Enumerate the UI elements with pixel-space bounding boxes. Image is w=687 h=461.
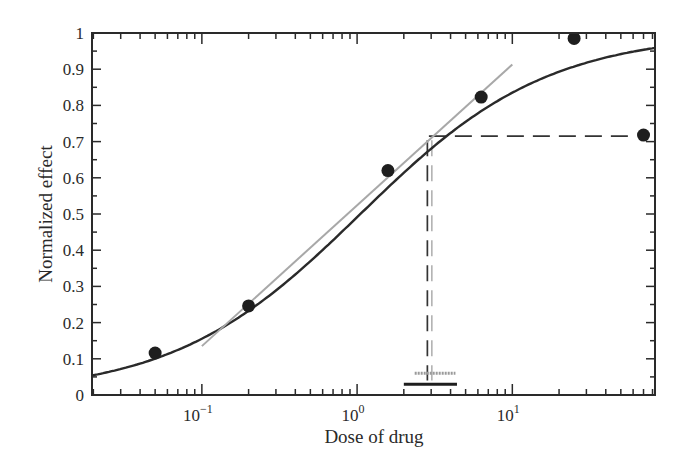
chart-canvas: 00.10.20.30.40.50.60.70.80.91 10−1100101… [0, 0, 687, 461]
data-point [637, 129, 650, 142]
fitted-curve [92, 48, 655, 376]
y-tick-label: 1 [76, 24, 85, 43]
y-axis-label: Normalized effect [35, 145, 56, 283]
x-tick-label: 10−1 [183, 402, 213, 425]
x-tick-label: 101 [497, 402, 520, 425]
y-tick-label: 0.1 [63, 350, 84, 369]
y-tick-label: 0.3 [63, 277, 84, 296]
series-layer [92, 32, 655, 376]
y-tick-label: 0.6 [63, 169, 84, 188]
y-tick-label: 0 [76, 386, 85, 405]
y-tick-label: 0.4 [63, 241, 85, 260]
y-tick-label: 0.7 [63, 133, 85, 152]
data-point [475, 91, 488, 104]
y-tick-label: 0.5 [63, 205, 84, 224]
y-tick-label: 0.2 [63, 314, 84, 333]
dose-response-figure: 00.10.20.30.40.50.60.70.80.91 10−1100101… [0, 0, 687, 461]
x-tick-label: 100 [342, 402, 365, 425]
data-point [149, 347, 162, 360]
annotations [404, 136, 636, 384]
x-tick-labels: 10−1100101 [183, 402, 520, 425]
y-tick-label: 0.8 [63, 96, 84, 115]
y-tick-label: 0.9 [63, 60, 84, 79]
axis-ticks [92, 33, 655, 395]
x-axis-label: Dose of drug [324, 426, 424, 447]
plot-frame [92, 33, 655, 395]
data-point [242, 299, 255, 312]
data-point [381, 164, 394, 177]
y-tick-labels: 00.10.20.30.40.50.60.70.80.91 [63, 24, 85, 405]
